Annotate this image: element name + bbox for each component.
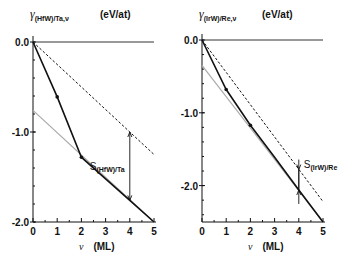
series-dashed <box>33 42 154 155</box>
data-point-marker <box>80 155 84 159</box>
chart-units: (eV/at) <box>262 9 293 20</box>
chart-canvas: γ(HfW)/Ta,ν(eV/at)0123450.0-1.0-2.0ν(ML)… <box>0 0 340 260</box>
series-calculated <box>202 40 323 222</box>
x-tick-label: 0 <box>199 226 205 237</box>
x-tick-label: 1 <box>223 226 229 237</box>
x-tick-label: 4 <box>127 226 133 237</box>
y-tick-label: -2.0 <box>12 217 30 228</box>
x-tick-label: 3 <box>272 226 278 237</box>
x-tick-label: 1 <box>54 226 60 237</box>
x-tick-label: 3 <box>103 226 109 237</box>
y-tick-label: -1.0 <box>181 108 199 119</box>
x-tick-label: 2 <box>248 226 254 237</box>
y-tick-label: -1.0 <box>12 127 30 138</box>
y-tick-label: 0.0 <box>184 35 198 46</box>
data-point-marker <box>55 95 59 99</box>
y-tick-label: 0.0 <box>15 37 29 48</box>
data-point-marker <box>249 123 253 127</box>
x-axis-label: ν(ML) <box>248 241 284 252</box>
x-axis-label: ν(ML) <box>79 241 115 252</box>
x-tick-label: 4 <box>296 226 302 237</box>
x-tick-label: 5 <box>151 226 157 237</box>
x-tick-label: 5 <box>320 226 326 237</box>
chart-panel-1: γ(HfW)/Ta,ν(eV/at)0123450.0-1.0-2.0ν(ML)… <box>12 7 157 252</box>
series-dashed <box>202 40 323 202</box>
x-tick-label: 2 <box>79 226 85 237</box>
annotation-label: S(HfW)/Ta <box>90 161 125 174</box>
x-tick-label: 0 <box>30 226 36 237</box>
data-point-marker <box>224 88 228 92</box>
chart-panel-2: γ(IrW)/Re,ν(eV/at)0123450.0-1.0-2.0ν(ML)… <box>181 7 338 252</box>
series-calculated <box>33 42 154 222</box>
chart-title: γ(HfW)/Ta,ν <box>30 7 69 23</box>
chart-units: (eV/at) <box>100 9 131 20</box>
annotation-label: S(IrW)/Re <box>304 159 338 172</box>
y-tick-label: -2.0 <box>181 181 199 192</box>
chart-title: γ(IrW)/Re,ν <box>199 7 237 23</box>
